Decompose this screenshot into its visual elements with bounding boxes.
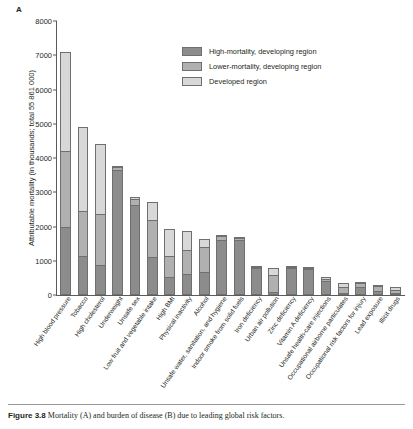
- bar-segment: [199, 247, 210, 272]
- y-tick-mark: [53, 295, 57, 296]
- bar-segment: [60, 227, 71, 296]
- legend-item-label: Developed region: [209, 77, 267, 86]
- bar-segment: [147, 202, 158, 220]
- bar-segment: [216, 236, 227, 239]
- legend-swatch-icon: [182, 77, 202, 86]
- legend-swatch-icon: [182, 47, 202, 56]
- bar-segment: [78, 127, 89, 211]
- legend-item-lower-mortality-developing: Lower-mortality, developing region: [182, 60, 382, 73]
- legend: High-mortality, developing region Lower-…: [182, 45, 382, 90]
- bar: [95, 144, 106, 295]
- panel-label-a: A: [16, 5, 22, 14]
- bar: [60, 52, 71, 295]
- bar-segment: [95, 144, 106, 214]
- y-tick-mark: [53, 192, 57, 193]
- bar-segment: [216, 235, 227, 236]
- y-tick-mark: [53, 123, 57, 124]
- figure-panel: A Attributable mortality (in thousands; …: [0, 0, 413, 429]
- y-tick-mark: [53, 55, 57, 56]
- legend-item-developed: Developed region: [182, 75, 382, 88]
- figure-caption: Figure 3.8 Mortality (A) and burden of d…: [8, 411, 408, 421]
- caption-figure-number: Figure 3.8: [8, 411, 46, 420]
- legend-item-high-mortality-developing: High-mortality, developing region: [182, 45, 382, 58]
- legend-swatch-icon: [182, 62, 202, 71]
- bar-segment: [60, 151, 71, 226]
- bar-segment: [112, 166, 123, 167]
- y-tick-mark: [53, 158, 57, 159]
- bar-segment: [78, 211, 89, 256]
- y-tick-mark: [53, 226, 57, 227]
- bar-segment: [130, 197, 141, 199]
- bar-segment: [164, 229, 175, 256]
- bar-segment: [60, 52, 71, 151]
- y-axis-title: Attributable mortality (in thousands; to…: [27, 70, 36, 246]
- y-tick-mark: [53, 89, 57, 90]
- y-tick-mark: [53, 21, 57, 22]
- legend-item-label: Lower-mortality, developing region: [209, 62, 321, 71]
- caption-divider: [8, 404, 405, 405]
- bar-segment: [234, 238, 245, 240]
- bar-segment: [234, 237, 245, 238]
- bar-segment: [147, 220, 158, 257]
- bar-segment: [112, 167, 123, 170]
- legend-item-label: High-mortality, developing region: [209, 47, 317, 56]
- bar-segment: [130, 199, 141, 205]
- y-tick-mark: [53, 260, 57, 261]
- caption-body: Mortality (A) and burden of disease (B) …: [48, 411, 285, 420]
